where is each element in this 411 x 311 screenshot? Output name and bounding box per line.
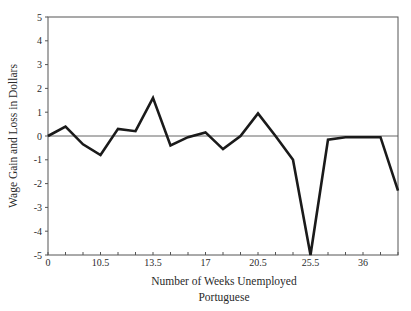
y-tick-label: -2: [34, 178, 42, 189]
y-tick-label: -3: [34, 202, 42, 213]
y-tick-label: -4: [34, 226, 42, 237]
y-tick-label: -5: [34, 250, 42, 261]
x-tick-label: 10.5: [92, 257, 110, 268]
x-tick-label: 36: [358, 257, 368, 268]
y-tick-label: 2: [37, 83, 42, 94]
data-series-line: [48, 98, 398, 255]
x-tick-label: 25.5: [302, 257, 320, 268]
chart-subtitle: Portuguese: [198, 291, 249, 304]
x-tick-label: 13.5: [144, 257, 162, 268]
y-tick-label: 0: [37, 131, 42, 142]
x-axis-ticks: 010.513.51720.525.536: [46, 252, 399, 268]
y-tick-label: 5: [37, 12, 42, 23]
y-tick-label: 4: [37, 35, 42, 46]
x-tick-label: 17: [201, 257, 211, 268]
x-axis-title: Number of Weeks Unemployed: [151, 275, 297, 288]
y-tick-label: -1: [34, 154, 42, 165]
y-tick-label: 1: [37, 107, 42, 118]
x-tick-label: 20.5: [249, 257, 267, 268]
y-axis-title: Wage Gain and Loss in Dollars: [7, 64, 20, 208]
x-tick-label: 0: [46, 257, 51, 268]
y-tick-label: 3: [37, 59, 42, 70]
line-chart: 543210-1-2-3-4-5 010.513.51720.525.536 W…: [0, 0, 411, 311]
y-axis-ticks: 543210-1-2-3-4-5: [34, 12, 48, 261]
